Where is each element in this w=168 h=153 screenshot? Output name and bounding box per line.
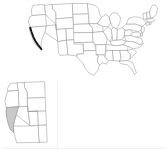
state-florida[interactable] xyxy=(119,61,136,75)
state-kansas[interactable] xyxy=(74,33,93,43)
state-wyoming[interactable] xyxy=(56,18,74,30)
inset-state-washington[interactable] xyxy=(8,83,19,91)
western-states-inset[interactable] xyxy=(2,80,64,152)
state-ohio[interactable] xyxy=(117,28,125,41)
state-indiana[interactable] xyxy=(111,28,117,41)
inset-state-new-mexico[interactable] xyxy=(38,125,47,142)
state-mississippi[interactable] xyxy=(105,51,113,61)
state-massachusetts[interactable] xyxy=(146,18,155,22)
inset-state-wyoming[interactable] xyxy=(28,98,46,112)
us-map-figure xyxy=(0,0,168,153)
inset-state-oregon[interactable] xyxy=(5,90,19,107)
state-south-dakota[interactable] xyxy=(73,14,89,25)
state-new-jersey[interactable] xyxy=(141,26,144,32)
state-north-dakota[interactable] xyxy=(73,3,89,14)
state-alabama[interactable] xyxy=(113,51,121,62)
footer-rule-container xyxy=(0,145,168,153)
state-arizona[interactable] xyxy=(58,40,68,55)
inset-state-arizona[interactable] xyxy=(13,125,39,142)
inset-state-montana[interactable] xyxy=(24,82,45,99)
state-michigan[interactable] xyxy=(109,13,120,29)
state-oregon[interactable] xyxy=(28,15,46,28)
state-arkansas[interactable] xyxy=(96,45,106,56)
state-washington[interactable] xyxy=(32,5,46,16)
main-map-states xyxy=(28,3,157,75)
state-maine[interactable] xyxy=(150,5,158,18)
